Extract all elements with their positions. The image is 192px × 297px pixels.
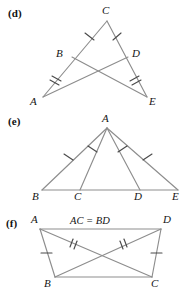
vertex-label-A: A — [30, 96, 37, 107]
vertex-label-E: E — [149, 96, 156, 107]
vertex-label-A: A — [31, 214, 38, 225]
vertex-label-C: C — [151, 278, 158, 289]
panel-e: (e) A B C D E — [0, 110, 192, 210]
panel-f: (f) AC = BD A D B C — [0, 210, 192, 297]
vertex-label-B: B — [32, 191, 39, 202]
vertex-label-D: D — [134, 191, 142, 202]
vertex-label-E: E — [172, 191, 179, 202]
vertex-label-B: B — [56, 48, 63, 59]
vertex-label-B: B — [44, 278, 51, 289]
tick-BA-2 — [50, 80, 59, 85]
segment-BD — [55, 229, 161, 277]
segment-AC — [40, 229, 152, 277]
panel-d: (d) C B D A E — [0, 0, 192, 110]
panel-d-drawing — [0, 0, 192, 110]
tick-AE-1 — [143, 154, 152, 160]
vertex-label-A: A — [102, 113, 109, 124]
vertex-label-D: D — [132, 48, 140, 59]
segment-CE — [107, 21, 147, 97]
segment-AB — [42, 128, 107, 190]
vertex-label-D: D — [163, 214, 171, 225]
panel-e-drawing — [0, 110, 192, 210]
segment-AD — [107, 128, 140, 190]
segment-AC — [80, 128, 107, 190]
segment-BE — [72, 57, 147, 97]
vertex-label-C: C — [102, 5, 109, 16]
tick-CB-1 — [85, 33, 94, 40]
segment-AE — [107, 128, 178, 190]
vertex-label-C: C — [74, 191, 81, 202]
geometry-figure-sheet: (d) C B D A E (e) — [0, 0, 192, 297]
segment-DA — [43, 57, 128, 97]
tick-AC-1 — [88, 146, 97, 152]
tick-AB-1 — [64, 154, 73, 160]
tick-AD-1 — [118, 146, 127, 152]
equation-label-AC-BD: AC = BD — [70, 216, 110, 227]
